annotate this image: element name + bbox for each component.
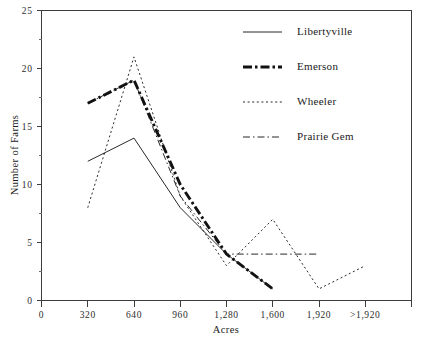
x-tick-label: 1,280	[214, 310, 238, 320]
legend-label-libertyville: Libertyville	[297, 25, 353, 37]
y-tick-label: 15	[22, 122, 33, 132]
x-axis-title: Acres	[213, 324, 240, 335]
y-tick-label: 10	[22, 180, 33, 190]
x-tick-label: 1,600	[261, 310, 285, 320]
chart-background	[0, 0, 431, 339]
y-axis-title: Number of Farms	[9, 115, 20, 196]
legend-label-emerson: Emerson	[297, 60, 338, 72]
x-tick-label: 640	[126, 310, 142, 320]
x-tick-label: 320	[80, 310, 96, 320]
farms-by-acres-line-chart: 0510152025 03206409601,2801,6001,920>1,9…	[0, 0, 431, 339]
x-tick-label: 1,920	[307, 310, 331, 320]
x-tick-label: 960	[172, 310, 188, 320]
x-tick-label: >1,920	[350, 310, 380, 320]
y-tick-label: 25	[22, 6, 33, 16]
y-tick-label: 5	[27, 238, 32, 248]
x-tick-label: 0	[39, 310, 44, 320]
legend-label-prairie-gem: Prairie Gem	[297, 130, 354, 142]
y-tick-label: 20	[22, 64, 33, 74]
legend-label-wheeler: Wheeler	[297, 95, 336, 107]
y-tick-label: 0	[27, 296, 32, 306]
chart-container: 0510152025 03206409601,2801,6001,920>1,9…	[0, 0, 431, 339]
